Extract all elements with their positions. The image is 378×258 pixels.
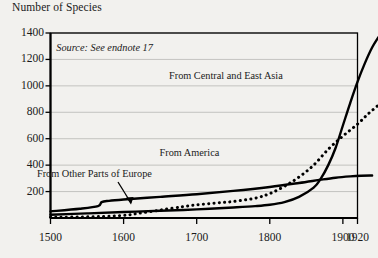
x-tick-label: 1800 <box>247 232 293 244</box>
chart-figure: Number of Species 2004006008001000120014… <box>0 0 378 258</box>
y-axis-tick-labels: 200400600800100012001400 <box>8 0 44 258</box>
series-label-europe: From Other Parts of Europe <box>0 168 283 179</box>
plot-area <box>0 0 378 258</box>
axis-ticks <box>46 33 358 224</box>
series-label-america: From America <box>0 147 378 158</box>
y-tick-label: 1200 <box>10 53 44 65</box>
x-tick-label: 1600 <box>101 232 147 244</box>
series-line-asia <box>51 36 378 215</box>
y-tick-label: 200 <box>10 186 44 198</box>
arrow-head <box>126 197 133 205</box>
series-label-asia: From Central and East Asia <box>37 70 378 81</box>
source-note-annotation: Source: See endnote 17 <box>56 42 153 53</box>
series-group <box>51 36 378 218</box>
x-tick-label: 1500 <box>28 232 74 244</box>
y-tick-label: 800 <box>10 106 44 118</box>
series-line-europe <box>51 175 373 211</box>
x-tick-label: 1920 <box>335 232 378 244</box>
y-tick-label: 1400 <box>10 27 44 39</box>
x-tick-label: 1700 <box>174 232 220 244</box>
y-tick-label: 1000 <box>10 80 44 92</box>
x-axis-tick-labels: 150016001700180019001920 <box>0 232 378 252</box>
europe-leader-arrow <box>118 182 134 205</box>
y-tick-label: 600 <box>10 133 44 145</box>
series-line-america <box>51 104 378 217</box>
